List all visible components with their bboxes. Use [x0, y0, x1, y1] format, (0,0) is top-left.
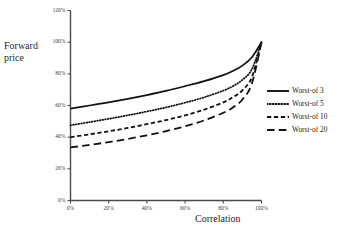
chart-axes	[71, 11, 262, 201]
y-axis-title: Forward price	[4, 40, 60, 64]
legend-label: Worst-of 20	[292, 125, 327, 134]
legend-label: Worst-of 3	[292, 86, 324, 95]
legend-swatch-dashed-short-icon	[267, 113, 289, 121]
legend-item[interactable]: Worst-of 3	[267, 84, 342, 97]
y-tick-label: 20%	[55, 165, 66, 171]
chart-container: 0%20%40%60%80%100%120% 0%20%40%60%80%100…	[0, 0, 342, 234]
legend-item[interactable]: Worst-of 5	[267, 97, 342, 110]
y-tick-label: 40%	[55, 133, 66, 139]
x-tick-label: 20%	[104, 205, 115, 211]
x-tick-label: 100%	[255, 205, 268, 211]
legend-item[interactable]: Worst-of 10	[267, 110, 342, 123]
legend-swatch-dotted-icon	[267, 100, 289, 108]
y-axis-ticks: 0%20%40%60%80%100%120%	[52, 7, 70, 203]
x-axis-ticks: 0%20%40%60%80%100%	[67, 201, 269, 211]
legend-item[interactable]: Worst-of 20	[267, 123, 342, 136]
series-line-1	[71, 42, 262, 109]
y-tick-label: 60%	[55, 102, 66, 108]
chart-legend: Worst-of 3Worst-of 5Worst-of 10Worst-of …	[267, 84, 342, 136]
chart-series-group	[71, 42, 262, 147]
x-tick-label: 40%	[142, 205, 153, 211]
series-line-4	[71, 42, 262, 147]
y-tick-label: 80%	[55, 70, 66, 76]
legend-label: Worst-of 10	[292, 112, 327, 121]
legend-swatch-solid-icon	[267, 87, 289, 95]
legend-label: Worst-of 5	[292, 99, 324, 108]
y-axis-title-line2: price	[4, 52, 60, 64]
y-tick-label: 0%	[58, 197, 66, 203]
y-axis-title-line1: Forward	[4, 40, 60, 52]
series-line-3	[71, 42, 262, 137]
series-line-2	[71, 42, 262, 125]
y-tick-label: 120%	[52, 7, 65, 13]
x-tick-label: 80%	[218, 205, 229, 211]
legend-swatch-dashed-long-icon	[267, 126, 289, 134]
x-axis-title: Correlation	[195, 213, 241, 224]
x-tick-label: 60%	[180, 205, 191, 211]
x-tick-label: 0%	[67, 205, 75, 211]
